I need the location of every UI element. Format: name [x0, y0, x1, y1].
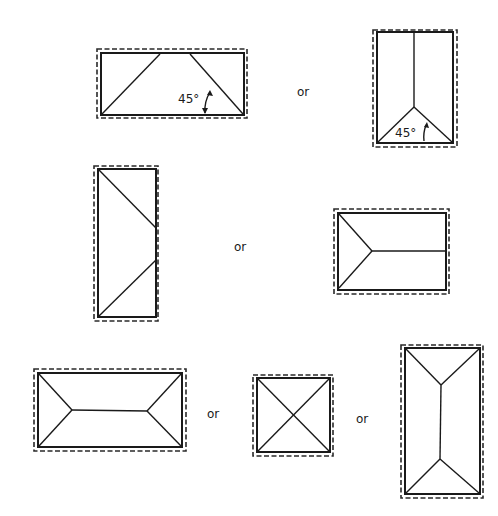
arrow-icon	[202, 108, 208, 114]
or-label: or	[356, 412, 368, 426]
or-label: or	[207, 407, 219, 421]
roof-plan-diagram: 45° or 45° or or	[0, 0, 498, 516]
hip-line	[406, 459, 440, 493]
hip-line	[440, 459, 479, 493]
angle-label: 45°	[395, 126, 416, 140]
roof-shape-5	[34, 369, 186, 451]
hip-line	[147, 374, 181, 411]
outline-solid	[101, 53, 244, 115]
hip-line	[414, 107, 452, 142]
angle-arc	[424, 125, 426, 141]
ridge-line	[72, 410, 147, 411]
roof-shape-2: 45°	[373, 30, 457, 147]
outline-dashed	[94, 166, 158, 321]
arrow-icon	[424, 122, 429, 128]
hip-line	[339, 214, 372, 251]
roof-shape-7	[401, 345, 483, 498]
roof-shape-3	[94, 166, 158, 321]
ridge-line	[440, 385, 441, 459]
hip-line	[441, 349, 479, 385]
outline-dashed	[97, 49, 247, 118]
hip-line	[406, 349, 441, 385]
outline-dashed	[401, 345, 483, 498]
roof-shape-4	[334, 209, 449, 294]
or-label: or	[297, 85, 309, 99]
hip-line	[102, 54, 160, 114]
hip-line	[39, 410, 72, 446]
hip-line	[339, 251, 372, 288]
arrow-icon	[207, 90, 213, 96]
hip-line	[99, 170, 156, 228]
outline-solid	[405, 348, 480, 494]
or-label: or	[234, 240, 246, 254]
hip-line	[147, 411, 181, 446]
roof-shape-6	[253, 375, 333, 456]
hip-line	[39, 374, 72, 410]
outline-solid	[98, 169, 156, 317]
angle-label: 45°	[178, 92, 199, 106]
hip-line	[99, 260, 156, 316]
roof-shape-1: 45°	[97, 49, 247, 118]
